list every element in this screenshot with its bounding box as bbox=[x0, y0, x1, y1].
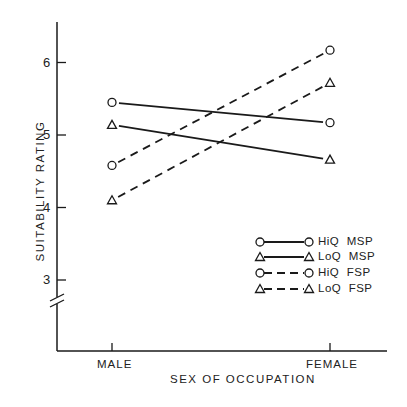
triangle-marker-icon bbox=[256, 253, 265, 261]
circle-marker-icon bbox=[326, 46, 334, 54]
triangle-marker-icon bbox=[326, 78, 335, 86]
legend-item bbox=[256, 253, 314, 261]
triangle-marker-icon bbox=[305, 285, 314, 293]
triangle-marker-icon bbox=[256, 285, 265, 293]
triangle-marker-icon bbox=[108, 196, 117, 204]
line-chart: SUITABILITY RATING 3456 MALE FEMALE SEX … bbox=[0, 0, 407, 407]
series-loq-fsp bbox=[108, 78, 335, 203]
x-axis-label: SEX OF OCCUPATION bbox=[170, 373, 316, 385]
legend-label-loq-msp: LoQ MSP bbox=[318, 250, 375, 262]
legend-item bbox=[256, 238, 313, 246]
x-category-male: MALE bbox=[97, 358, 132, 370]
series-hiq-msp bbox=[108, 98, 334, 126]
legend-label-loq-fsp: LoQ FSP bbox=[318, 282, 373, 294]
series-hiq-fsp bbox=[108, 46, 334, 169]
chart-plot-area bbox=[0, 0, 407, 407]
circle-marker-icon bbox=[326, 119, 334, 127]
legend-item bbox=[256, 269, 313, 277]
circle-marker-icon bbox=[305, 269, 313, 277]
legend-label-hiq-fsp: HiQ FSP bbox=[318, 266, 371, 278]
legend-item bbox=[256, 285, 314, 293]
circle-marker-icon bbox=[256, 269, 264, 277]
triangle-marker-icon bbox=[108, 120, 117, 128]
y-tick-label: 5 bbox=[43, 127, 50, 142]
circle-marker-icon bbox=[305, 238, 313, 246]
circle-marker-icon bbox=[108, 98, 116, 106]
y-tick-label: 4 bbox=[43, 200, 50, 215]
y-tick-label: 3 bbox=[43, 272, 50, 287]
legend-label-hiq-msp: HiQ MSP bbox=[318, 235, 373, 247]
y-ticks bbox=[57, 63, 66, 281]
x-category-female: FEMALE bbox=[306, 358, 358, 370]
data-series bbox=[108, 46, 335, 204]
y-tick-label: 6 bbox=[43, 55, 50, 70]
legend bbox=[256, 238, 314, 293]
circle-marker-icon bbox=[108, 161, 116, 169]
circle-marker-icon bbox=[256, 238, 264, 246]
triangle-marker-icon bbox=[305, 253, 314, 261]
triangle-marker-icon bbox=[326, 155, 335, 163]
